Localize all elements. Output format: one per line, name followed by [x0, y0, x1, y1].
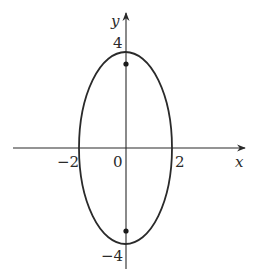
x-tick-2-label: 2 — [175, 153, 185, 171]
lower-focus-point — [123, 228, 128, 233]
upper-focus-point — [123, 61, 128, 66]
x-tick-neg2-label: −2 — [57, 153, 79, 171]
ellipse-diagram: y 4 −2 0 2 x −4 — [0, 0, 255, 272]
y-tick-neg4-label: −4 — [101, 247, 123, 265]
y-axis-label: y — [110, 12, 120, 30]
x-axis-label: x — [235, 153, 244, 171]
origin-label: 0 — [113, 153, 123, 171]
y-tick-4-label: 4 — [113, 34, 123, 52]
